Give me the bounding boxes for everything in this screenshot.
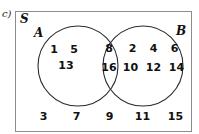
- element-value: 8: [100, 43, 118, 55]
- region-b-only-row-2: 10 12 14: [119, 62, 188, 74]
- element-value: 11: [126, 111, 159, 123]
- set-b-label: B: [176, 25, 186, 37]
- element-value: 4: [143, 43, 164, 55]
- element-value: 5: [64, 44, 84, 56]
- element-value: 12: [142, 62, 165, 74]
- region-a-only-row-2: 13: [56, 60, 76, 72]
- region-intersection-row-1: 8: [100, 43, 118, 55]
- element-value: 16: [100, 62, 118, 74]
- region-a-only-row-1: 1 5: [44, 44, 84, 56]
- element-value: 3: [27, 111, 60, 123]
- part-label: c): [2, 8, 12, 20]
- region-outside-circles: 3 7 9 11 15: [27, 111, 192, 123]
- universal-set-label: S: [20, 13, 29, 25]
- element-value: 6: [164, 43, 185, 55]
- element-value: 13: [56, 60, 76, 72]
- set-a-label: A: [34, 27, 43, 39]
- element-value: 1: [44, 44, 64, 56]
- region-b-only-row-1: 2 4 6: [122, 43, 185, 55]
- element-value: 2: [122, 43, 143, 55]
- venn-diagram-screenshot: c) S A B 1 5 13 8 16 2 4 6 10 12 14 3 7 …: [0, 0, 199, 134]
- scan-artifact-strip: [0, 0, 199, 6]
- region-intersection-row-2: 16: [100, 62, 118, 74]
- element-value: 7: [60, 111, 93, 123]
- element-value: 10: [119, 62, 142, 74]
- element-value: 15: [159, 111, 192, 123]
- element-value: 14: [165, 62, 188, 74]
- element-value: 9: [93, 111, 126, 123]
